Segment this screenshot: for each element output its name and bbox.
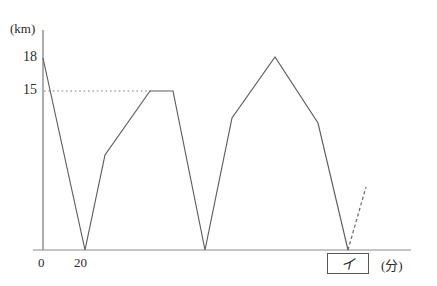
y-axis-unit-label: (km)	[10, 22, 35, 35]
distance-series-line	[43, 57, 348, 250]
y-axis-tick-label-18: 18	[23, 50, 37, 64]
continuation-dashed-line	[348, 187, 366, 250]
x-axis-tick-label-20: 20	[74, 256, 87, 269]
answer-box: イ	[327, 253, 369, 274]
answer-box-label: イ	[341, 257, 355, 271]
y-axis-tick-label-15: 15	[23, 83, 37, 97]
x-axis-unit-label: (分)	[381, 259, 403, 272]
distance-time-graph-figure: (km) (分) 18 15 0 20 イ	[0, 0, 437, 286]
graph-canvas	[0, 0, 437, 286]
x-axis-tick-label-0: 0	[38, 256, 45, 269]
